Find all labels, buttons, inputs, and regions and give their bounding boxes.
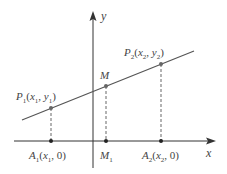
point-a2 (159, 139, 163, 143)
midpoint-diagram: y x P1(x1, y1) M P2(x2, y2) A1(x1, 0) M1… (0, 0, 227, 174)
point-m (104, 84, 108, 88)
label-a1: A1(x1, 0) (28, 149, 66, 164)
y-axis (90, 11, 97, 168)
point-a1 (49, 139, 53, 143)
point-m1 (104, 139, 108, 143)
y-axis-label: y (100, 9, 107, 23)
point-p2 (159, 62, 163, 66)
x-axis-label: x (205, 146, 212, 160)
label-p2: P2(x2, y2) (123, 46, 164, 61)
label-m1: M1 (99, 149, 113, 164)
x-axis (14, 138, 216, 145)
line-p1-p2 (22, 51, 194, 120)
label-p1: P1(x1, y1) (15, 90, 56, 105)
point-p1 (49, 106, 53, 110)
label-a2: A2(x2, 0) (141, 149, 179, 164)
label-m: M (99, 69, 110, 81)
